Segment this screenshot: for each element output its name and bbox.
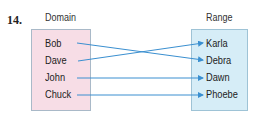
mapping-arrows <box>0 0 258 114</box>
